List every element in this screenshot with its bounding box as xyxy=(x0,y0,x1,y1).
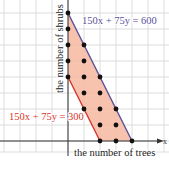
lower-line-label: 150x + 75y = 300 xyxy=(9,111,84,122)
upper-line-label: 150x + 75y = 600 xyxy=(82,15,157,26)
y-axis-label: the number of shrubs xyxy=(54,4,65,93)
x-axis-end-label: x xyxy=(163,137,167,146)
x-axis-label: the number of trees xyxy=(74,147,155,158)
inequality-graph: 150x + 75y = 600 150x + 75y = 300 the nu… xyxy=(0,0,169,169)
